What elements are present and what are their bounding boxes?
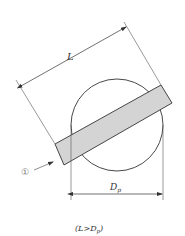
diameter-label: Dp — [109, 182, 121, 194]
marker-arrow — [34, 162, 53, 170]
condition-caption: (L>Dp) — [75, 224, 103, 235]
specimen-rectangle — [55, 85, 172, 165]
length-label: L — [66, 51, 74, 62]
extension-line-left — [16, 80, 55, 144]
extension-line-right — [124, 22, 161, 85]
diagram-canvas: L Dp ① (L>Dp) — [0, 0, 185, 236]
marker-label: ① — [21, 167, 29, 177]
